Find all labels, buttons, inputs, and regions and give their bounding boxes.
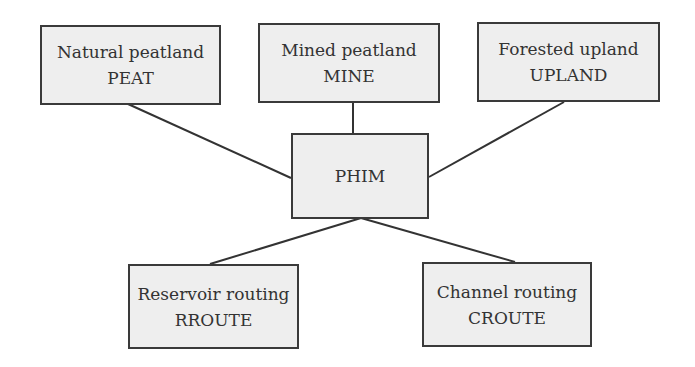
- edge-upland-phim: [429, 102, 564, 177]
- node-upland-code: UPLAND: [530, 62, 608, 88]
- node-croute: Channel routing CROUTE: [422, 262, 592, 347]
- edge-peat-phim: [128, 104, 291, 178]
- edge-phim-croute: [361, 218, 515, 262]
- node-mine: Mined peatland MINE: [258, 23, 440, 103]
- node-mine-label: Mined peatland: [281, 37, 416, 63]
- node-rroute-code: RROUTE: [175, 307, 253, 333]
- node-peat-code: PEAT: [107, 65, 154, 91]
- node-phim: PHIM: [291, 133, 429, 219]
- node-rroute-label: Reservoir routing: [138, 281, 290, 307]
- edge-phim-rroute: [210, 218, 361, 264]
- node-peat-label: Natural peatland: [57, 39, 204, 65]
- node-phim-label: PHIM: [335, 163, 385, 189]
- node-upland: Forested upland UPLAND: [477, 22, 660, 102]
- node-rroute: Reservoir routing RROUTE: [128, 264, 299, 349]
- node-croute-label: Channel routing: [437, 279, 577, 305]
- node-peat: Natural peatland PEAT: [40, 25, 221, 105]
- node-mine-code: MINE: [323, 63, 374, 89]
- node-upland-label: Forested upland: [498, 36, 638, 62]
- diagram-canvas: Natural peatland PEAT Mined peatland MIN…: [0, 0, 695, 367]
- node-croute-code: CROUTE: [468, 305, 546, 331]
